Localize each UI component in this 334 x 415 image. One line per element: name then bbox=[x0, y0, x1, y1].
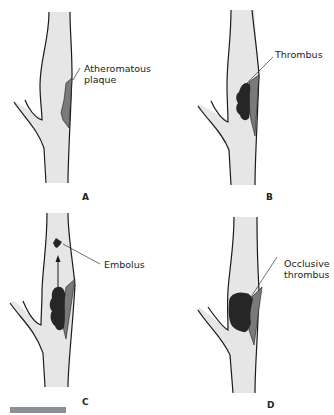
label-line1: Atheromatous bbox=[84, 63, 151, 74]
panel-c: Embolus C bbox=[0, 205, 167, 410]
label-line2: thrombus bbox=[284, 269, 330, 280]
label-line2: plaque bbox=[84, 74, 151, 85]
label-atheromatous-plaque: Atheromatous plaque bbox=[84, 63, 151, 85]
artery-diagram-b bbox=[167, 0, 334, 205]
panel-letter-b: B bbox=[266, 192, 273, 202]
panel-a: Atheromatous plaque A bbox=[0, 0, 167, 205]
artery-diagram-c bbox=[0, 205, 167, 415]
label-embolus: Embolus bbox=[104, 259, 145, 270]
label-thrombus: Thrombus bbox=[275, 49, 323, 60]
label-occlusive-thrombus: Occlusive thrombus bbox=[284, 258, 330, 280]
artery-diagram-d bbox=[167, 205, 334, 415]
panel-letter-a: A bbox=[82, 192, 89, 202]
figure-number-tag bbox=[10, 407, 66, 413]
panel-b: Thrombus B bbox=[167, 0, 334, 205]
artery-diagram-a bbox=[0, 0, 167, 205]
panel-d: Occlusive thrombus D bbox=[167, 205, 334, 410]
panel-letter-c: C bbox=[82, 397, 89, 407]
panel-letter-d: D bbox=[267, 400, 274, 410]
label-line1: Occlusive bbox=[284, 258, 330, 269]
